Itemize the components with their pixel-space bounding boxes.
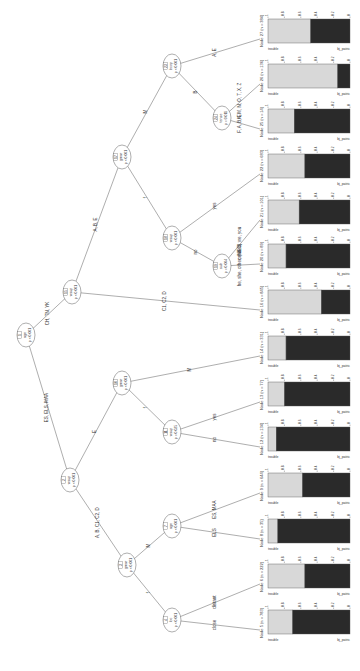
leaf-label: Node 12 (n = 134)	[259, 422, 264, 455]
edge-label: no	[193, 249, 198, 255]
bar-trouble	[268, 610, 293, 634]
bar-bj-patric	[305, 154, 350, 178]
tree-inner-nodes: 1agep < 0.0012wsupp < 0.0013gmarp < 0.00…	[17, 54, 231, 632]
leaf-cat-bottom: bj_patric	[337, 638, 350, 642]
leaf-cat-bottom: bj_patric	[337, 228, 350, 232]
leaf-node: Node 25 (n = 14)troublebj_patric00.20.40…	[259, 101, 351, 141]
node-pvalue: p = 0.004	[224, 259, 228, 273]
leaf-cat-bottom: bj_patric	[337, 137, 350, 141]
edge-label: K, M, N, O, T, X, Z	[237, 83, 242, 120]
bar-bj-patric	[302, 473, 350, 497]
node-id: 24	[214, 116, 218, 120]
tick-label: 1	[265, 331, 269, 333]
tick-label: 0.6	[298, 146, 302, 151]
tick-label: 0.2	[331, 465, 335, 470]
tick-label: 0.6	[298, 11, 302, 16]
inner-node: 2wsupp < 0.001	[61, 468, 79, 492]
leaf-cat-top: trouble	[268, 455, 278, 459]
leaf-label: Node 27 (n = 384)	[259, 14, 264, 47]
tick-label: 0	[347, 422, 351, 424]
leaf-node: Node 20 (n = 89)troublebj_patric00.20.40…	[259, 236, 351, 276]
node-pvalue: p < 0.001	[174, 59, 178, 73]
edge-label: A, B, E	[93, 217, 98, 231]
edge-label: omitted, we, you	[237, 226, 242, 259]
tick-label: 0.6	[298, 192, 302, 197]
tick-label: 0.2	[331, 374, 335, 379]
inner-node: 7agep < 0.001	[163, 514, 181, 538]
leaf-node: Node 6 (n = 222)troublebj_patric00.20.40…	[259, 556, 351, 596]
tick-label: 0.6	[298, 511, 302, 516]
node-variable: gmar	[119, 378, 123, 387]
leaf-cat-bottom: bj_patric	[337, 47, 350, 51]
leaf-node: Node 12 (n = 134)troublebj_patric00.20.4…	[259, 419, 351, 459]
edge-label: no	[212, 437, 217, 443]
node-id: 1	[18, 334, 22, 336]
bar-trouble	[268, 473, 302, 497]
tick-label: 0.4	[314, 328, 318, 333]
tick-label: 0.4	[314, 282, 318, 287]
tick-label: 1	[265, 14, 269, 16]
tick-label: 0.6	[298, 419, 302, 424]
tick-label: 0.4	[314, 419, 318, 424]
tick-label: 0.8	[281, 419, 285, 424]
tick-label: 0	[347, 59, 351, 61]
leaf-node: Node 22 (n = 683)troublebj_patric00.20.4…	[259, 146, 351, 186]
tick-label: 0.6	[298, 56, 302, 61]
leaf-cat-top: trouble	[268, 228, 278, 232]
leaf-cat-top: trouble	[268, 182, 278, 186]
tick-label: 0.4	[314, 11, 318, 16]
node-pvalue: p < 0.001	[174, 613, 178, 627]
leaf-cat-top: trouble	[268, 92, 278, 96]
leaf-cat-top: trouble	[268, 501, 278, 505]
tick-label: 0.8	[281, 236, 285, 241]
tick-label: 0.2	[331, 236, 335, 241]
leaf-cat-bottom: bj_patric	[337, 92, 350, 96]
tick-label: 1	[265, 605, 269, 607]
tick-label: 0.8	[281, 11, 285, 16]
tick-label: 0.4	[314, 146, 318, 151]
bar-trouble	[268, 109, 294, 133]
leaf-node: Node 5 (n = 783)troublebj_patric00.20.40…	[259, 602, 351, 642]
node-id: 23	[164, 64, 168, 68]
tick-label: 0	[347, 468, 351, 470]
bar-bj-patric	[286, 244, 350, 268]
leaf-node: Node 13 (n = 77)troublebj_patric00.20.40…	[259, 374, 351, 414]
tick-label: 0.8	[281, 101, 285, 106]
node-variable: bcop	[169, 62, 173, 70]
leaf-label: Node 8 (n = 35)	[259, 518, 264, 547]
tick-label: 0.2	[331, 511, 335, 516]
leaf-cat-top: trouble	[268, 364, 278, 368]
node-variable: wsup	[67, 476, 71, 484]
node-variable: wsup	[169, 234, 173, 242]
edge-label: f	[146, 591, 151, 593]
inner-node: 24tensep = 0.011	[213, 106, 231, 130]
node-pvalue: p < 0.001	[74, 285, 78, 299]
inner-node: 17gmarp < 0.001	[113, 145, 131, 169]
bar-trouble	[268, 154, 305, 178]
node-variable: sub	[219, 263, 223, 269]
tick-label: 0.6	[298, 282, 302, 287]
bar-trouble	[268, 564, 305, 588]
tick-label: 1	[265, 514, 269, 516]
leaf-label: Node 21 (n = 101)	[259, 195, 264, 228]
tick-label: 0.8	[281, 328, 285, 333]
tick-label: 0.4	[314, 236, 318, 241]
tick-label: 1	[265, 59, 269, 61]
tick-label: 0.6	[298, 101, 302, 106]
tick-label: 0.8	[281, 511, 285, 516]
node-id: 7	[164, 525, 168, 527]
leaf-cat-top: trouble	[268, 638, 278, 642]
bar-trouble	[268, 64, 338, 88]
tick-label: 0.6	[298, 374, 302, 379]
leaf-label: Node 5 (n = 783)	[259, 607, 264, 638]
leaf-label: Node 16 (n = 845)	[259, 285, 264, 318]
bar-bj-patric	[286, 336, 350, 360]
edge-label: M	[146, 543, 151, 547]
edge-label: C1, C2, D	[162, 290, 167, 311]
leaf-node: Node 26 (n = 136)troublebj_patric00.20.4…	[259, 56, 351, 96]
bar-trouble	[268, 382, 284, 406]
node-pvalue: p = 0.025	[174, 425, 178, 439]
edge-label: CH, TN, YK	[45, 302, 50, 325]
bar-bj-patric	[321, 290, 350, 314]
tick-label: 1	[265, 239, 269, 241]
